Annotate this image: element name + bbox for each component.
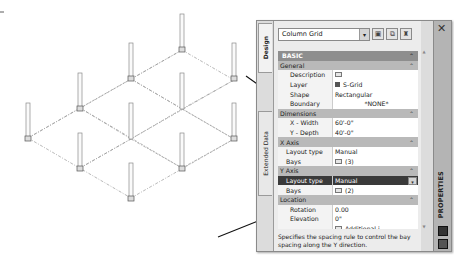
- prop-value[interactable]: *NONE*: [332, 99, 418, 109]
- edit-dialog-icon[interactable]: [335, 188, 342, 193]
- prop-value[interactable]: (3): [332, 157, 418, 167]
- prop-y-bays[interactable]: Bays (2): [278, 185, 418, 195]
- prop-label: Layout type: [278, 176, 332, 186]
- prop-label: Elevation: [278, 215, 332, 222]
- collapse-icon[interactable]: ⌃: [409, 139, 414, 146]
- object-type-value: Column Grid: [282, 30, 323, 38]
- tab-design-label: Design: [262, 36, 269, 59]
- prop-layer[interactable]: Layer S-Grid: [278, 80, 418, 90]
- category-basic[interactable]: BASIC ⌃: [278, 51, 418, 61]
- prop-label: Shape: [278, 91, 332, 98]
- collapse-icon[interactable]: ⌃: [409, 62, 414, 69]
- prop-additional-info[interactable]: Additional i...: [278, 224, 418, 229]
- palette-menu-icon[interactable]: [438, 239, 448, 249]
- close-icon[interactable]: ✕: [437, 23, 446, 34]
- palette-titlebar[interactable]: ✕ PROPERTIES: [433, 21, 451, 251]
- prop-label: X - Width: [278, 119, 332, 126]
- prop-label: Description: [278, 71, 332, 78]
- tab-extended-data[interactable]: Extended Data: [258, 111, 272, 196]
- prop-y-layout-type[interactable]: Layout type Manual ▾: [278, 176, 418, 186]
- prop-value[interactable]: 40'-0": [332, 128, 418, 138]
- category-dimensions-label: Dimensions: [280, 110, 316, 117]
- category-dimensions[interactable]: Dimensions ⌃: [278, 109, 418, 119]
- prop-x-bays[interactable]: Bays (3): [278, 157, 418, 167]
- layout-type-select[interactable]: Manual ▾: [332, 176, 418, 186]
- chevron-down-icon[interactable]: ▾: [408, 177, 417, 185]
- style-toolbar: Column Grid ▾ ▣ ⧉ ♜: [278, 27, 420, 41]
- prop-rotation[interactable]: Rotation 0.00: [278, 205, 418, 215]
- category-y-axis[interactable]: Y Axis ⌃: [278, 166, 418, 176]
- collapse-icon[interactable]: ⌃: [409, 52, 414, 59]
- scroll-down-icon[interactable]: ▼: [421, 224, 427, 229]
- style-manager-icon[interactable]: ♜: [400, 28, 412, 40]
- prop-value[interactable]: 0.00: [332, 205, 418, 215]
- property-description: Specifies the spacing rule to control th…: [278, 233, 418, 249]
- tab-extended-data-label: Extended Data: [262, 131, 269, 176]
- property-scrollbar[interactable]: ▲ ▼: [421, 49, 427, 229]
- prop-x-layout-type[interactable]: Layout type Manual: [278, 147, 418, 157]
- category-basic-label: BASIC: [282, 52, 303, 59]
- edit-dialog-icon[interactable]: [335, 159, 342, 164]
- prop-value[interactable]: (2): [332, 185, 418, 195]
- category-general-label: General: [280, 62, 304, 69]
- prop-value[interactable]: 0": [332, 214, 418, 224]
- collapse-icon[interactable]: ⌃: [409, 167, 414, 174]
- category-x-axis-label: X Axis: [280, 139, 299, 146]
- prop-value-text: Manual: [335, 177, 357, 184]
- palette-properties-icon[interactable]: [438, 226, 448, 236]
- category-y-axis-label: Y Axis: [280, 167, 299, 174]
- object-type-select[interactable]: Column Grid ▾: [278, 28, 370, 41]
- chevron-down-icon[interactable]: ▾: [359, 29, 369, 40]
- palette-content: Column Grid ▾ ▣ ⧉ ♜ BASIC ⌃ General ⌃ De…: [273, 21, 421, 251]
- prop-description[interactable]: Description: [278, 70, 418, 80]
- edit-dialog-icon[interactable]: [335, 72, 342, 77]
- prop-value[interactable]: Manual: [332, 147, 418, 157]
- prop-value[interactable]: S-Grid: [332, 80, 418, 90]
- select-objects-icon[interactable]: ▣: [372, 28, 384, 40]
- prop-label: Bays: [278, 158, 332, 165]
- prop-value[interactable]: [332, 70, 418, 80]
- layer-color-icon: [335, 82, 340, 87]
- grid-columns: [25, 14, 237, 201]
- collapse-icon[interactable]: ⌃: [409, 196, 414, 203]
- prop-value[interactable]: Rectangular: [332, 89, 418, 99]
- category-general[interactable]: General ⌃: [278, 61, 418, 71]
- prop-y-depth[interactable]: Y - Depth 40'-0": [278, 128, 418, 138]
- prop-label: Boundary: [278, 100, 332, 107]
- prop-value-text: (2): [345, 187, 354, 194]
- prop-value-text: S-Grid: [343, 81, 362, 88]
- collapse-icon[interactable]: ⌃: [409, 110, 414, 117]
- category-location[interactable]: Location ⌃: [278, 195, 418, 205]
- prop-value-text: Additional i...: [345, 225, 386, 229]
- prop-value-text: (3): [345, 158, 354, 165]
- prop-boundary[interactable]: Boundary *NONE*: [278, 99, 418, 109]
- scroll-up-icon[interactable]: ▲: [421, 49, 427, 54]
- edit-dialog-icon[interactable]: [335, 226, 342, 229]
- tab-design[interactable]: Design: [258, 23, 272, 73]
- prop-x-width[interactable]: X - Width 60'-0": [278, 118, 418, 128]
- property-grid: BASIC ⌃ General ⌃ Description Layer S-Gr…: [278, 51, 418, 229]
- prop-label: Y - Depth: [278, 129, 332, 136]
- prop-shape[interactable]: Shape Rectangular: [278, 89, 418, 99]
- prop-value[interactable]: 60'-0": [332, 118, 418, 128]
- prop-label: Layout type: [278, 148, 332, 155]
- palette-tabs: Design Extended Data: [257, 21, 273, 251]
- category-location-label: Location: [280, 196, 306, 203]
- prop-value[interactable]: Additional i...: [332, 224, 418, 229]
- prop-elevation[interactable]: Elevation 0": [278, 214, 418, 224]
- prop-label: Bays: [278, 187, 332, 194]
- category-x-axis[interactable]: X Axis ⌃: [278, 137, 418, 147]
- quick-select-icon[interactable]: ⧉: [386, 28, 398, 40]
- palette-title: PROPERTIES: [437, 171, 445, 218]
- properties-palette: Design Extended Data Column Grid ▾ ▣ ⧉ ♜…: [256, 20, 452, 252]
- prop-label: Rotation: [278, 206, 332, 213]
- prop-label: Layer: [278, 81, 332, 88]
